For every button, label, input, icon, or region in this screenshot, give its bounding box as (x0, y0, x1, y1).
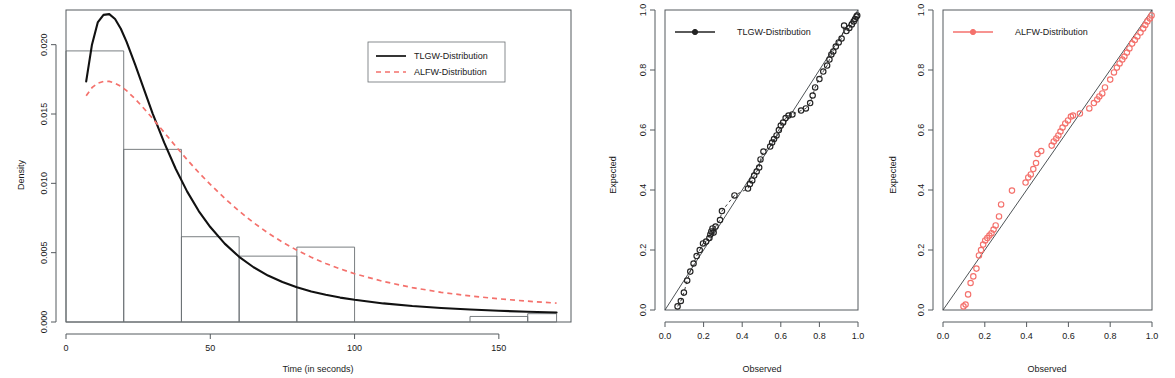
histogram-y-tick-label: 0.020 (39, 33, 49, 56)
qq-tlgw-y-tick-label: 0.6 (638, 124, 648, 137)
qq-tlgw-legend-label: TLGW-Distribution (737, 27, 811, 37)
qq-alfw-y-tick-label: 0.8 (916, 64, 926, 77)
qq-tlgw-y-tick-label: 0.8 (638, 64, 648, 77)
qq-tlgw-x-tick-label: 0.4 (736, 331, 749, 341)
density-curve-alfw (86, 81, 556, 303)
qq-tlgw-x-tick-label: 0.8 (813, 331, 826, 341)
qq-tlgw-svg: 0.00.20.40.60.81.00.00.20.40.60.81.0TLGW… (600, 0, 890, 378)
qq-alfw-data-point (1102, 85, 1107, 90)
qq-tlgw-data-point (817, 76, 822, 81)
qq-alfw-y-tick-label: 1.0 (916, 4, 926, 17)
qq-alfw-data-point (1108, 77, 1113, 82)
qq-tlgw-data-point (681, 290, 686, 295)
qq-tlgw-legend-marker (692, 29, 697, 34)
qq-tlgw-x-tick-label: 0.6 (775, 331, 788, 341)
qq-alfw-data-point (968, 280, 973, 285)
histogram-x-tick-label: 150 (491, 343, 506, 353)
qq-tlgw-y-tick-label: 0.4 (638, 184, 648, 197)
histogram-bar (528, 314, 557, 322)
qq-tlgw-data-point (810, 93, 815, 98)
qq-alfw-y-tick-label: 0.4 (916, 184, 926, 197)
qq-tlgw-y-axis-label: Expected (608, 156, 618, 194)
qq-alfw-reference-line (943, 10, 1152, 310)
qq-alfw-x-tick-label: 0.4 (1020, 331, 1033, 341)
qq-alfw-data-point (971, 274, 976, 279)
qq-alfw-data-point (978, 247, 983, 252)
qq-alfw-data-point (1031, 166, 1036, 171)
histogram-x-axis-label: Time (in seconds) (282, 364, 353, 374)
histogram-bar (239, 256, 297, 322)
density-histogram-panel: 0.0000.0050.0100.0150.020050100150TLGW-D… (0, 0, 600, 378)
qq-tlgw-connector-line (678, 15, 858, 306)
qq-tlgw-y-tick-label: 1.0 (638, 4, 648, 17)
qq-tlgw-x-tick-label: 1.0 (852, 331, 865, 341)
histogram-x-tick-label: 50 (205, 343, 215, 353)
qq-tlgw-y-tick-label: 0.0 (638, 304, 648, 317)
histogram-legend-label: ALFW-Distribution (414, 67, 487, 77)
qq-tlgw-x-tick-label: 0.0 (659, 331, 672, 341)
histogram-y-axis-label: Density (16, 159, 26, 190)
histogram-y-tick-label: 0.005 (39, 241, 49, 264)
qq-alfw-y-tick-label: 0.6 (916, 124, 926, 137)
qq-alfw-svg: 0.00.20.40.60.81.00.00.20.40.60.81.0ALFW… (880, 0, 1175, 378)
qq-alfw-data-point (1009, 188, 1014, 193)
qq-alfw-data-point (1023, 180, 1028, 185)
qq-alfw-x-tick-label: 0.2 (979, 331, 992, 341)
histogram-bar (470, 316, 528, 322)
qq-alfw-data-point (1087, 106, 1092, 111)
qq-alfw-x-axis-label: Observed (1027, 364, 1066, 374)
qq-tlgw-data-point (717, 217, 722, 222)
histogram-bar (124, 149, 182, 322)
qq-alfw-data-point (998, 202, 1003, 207)
qq-alfw-data-point (996, 214, 1001, 219)
histogram-bar (66, 51, 124, 322)
qq-tlgw-data-point (761, 149, 766, 154)
histogram-bar (297, 247, 355, 322)
qq-alfw-data-point (965, 292, 970, 297)
histogram-x-tick-label: 100 (347, 343, 362, 353)
qq-alfw-legend-marker (970, 29, 975, 34)
qq-alfw-data-point (1033, 160, 1038, 165)
histogram-legend-label: TLGW-Distribution (414, 51, 488, 61)
qq-alfw-data-point (1039, 148, 1044, 153)
histogram-y-tick-label: 0.010 (39, 172, 49, 195)
qq-tlgw-data-point (684, 278, 689, 283)
qq-plot-alfw-panel: 0.00.20.40.60.81.00.00.20.40.60.81.0ALFW… (880, 0, 1175, 378)
qq-alfw-legend-label: ALFW-Distribution (1015, 27, 1088, 37)
qq-alfw-y-tick-label: 0.0 (916, 304, 926, 317)
histogram-y-tick-label: 0.015 (39, 103, 49, 126)
qq-alfw-y-axis-label: Expected (888, 156, 898, 194)
qq-alfw-x-tick-label: 0.8 (1104, 331, 1117, 341)
histogram-y-tick-label: 0.000 (39, 311, 49, 334)
qq-alfw-x-tick-label: 1.0 (1146, 331, 1159, 341)
qq-tlgw-x-axis-label: Observed (742, 364, 781, 374)
qq-alfw-y-tick-label: 0.2 (916, 244, 926, 257)
three-panel-figure: 0.0000.0050.0100.0150.020050100150TLGW-D… (0, 0, 1175, 378)
qq-plot-tlgw-panel: 0.00.20.40.60.81.00.00.20.40.60.81.0TLGW… (600, 0, 890, 378)
histogram-x-tick-label: 0 (63, 343, 68, 353)
qq-alfw-x-tick-label: 0.0 (937, 331, 950, 341)
histogram-svg: 0.0000.0050.0100.0150.020050100150TLGW-D… (0, 0, 600, 378)
qq-alfw-x-tick-label: 0.6 (1062, 331, 1075, 341)
qq-alfw-data-point (974, 266, 979, 271)
qq-tlgw-y-tick-label: 0.2 (638, 244, 648, 257)
qq-tlgw-x-tick-label: 0.2 (697, 331, 710, 341)
